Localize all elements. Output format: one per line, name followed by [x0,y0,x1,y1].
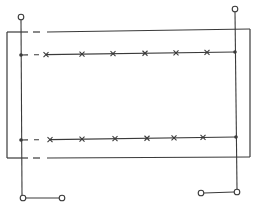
vertical-leads [21,12,237,198]
junction-dot [19,138,23,142]
left-vertical-lead [21,20,22,195]
right-bottom-terminal-b-icon [234,189,240,195]
terminals [18,6,240,201]
right-bottom-link [204,192,234,193]
right-vertical-lead [235,12,237,189]
frame-bottom-edge-segment [47,157,250,158]
circuit-diagram [0,0,255,212]
right-top-terminal-icon [232,6,238,12]
top-conductor [19,50,237,57]
junction-dot [19,53,23,57]
conductors [19,50,238,142]
conductor-line [50,137,236,140]
frame-top-edge-segment [47,29,250,32]
bottom-conductor [19,135,238,142]
left-bottom-terminal-a-icon [20,195,26,201]
junction-dot [234,135,238,139]
junction-dot [233,50,237,54]
left-bottom-terminal-b-icon [59,195,65,201]
left-top-terminal-icon [18,14,24,20]
right-bottom-terminal-a-icon [198,190,204,196]
